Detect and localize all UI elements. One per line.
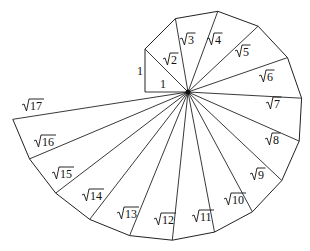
sqrt-label: 13 (117, 207, 139, 221)
sqrt-label: 9 (250, 168, 266, 182)
unit-leg (130, 236, 173, 241)
unit-leg (252, 181, 281, 212)
radicand: 5 (243, 45, 249, 59)
radicand: 8 (273, 133, 279, 147)
sqrt-label: 12 (154, 213, 176, 227)
radicand: 9 (258, 168, 264, 182)
unit-leg (90, 219, 130, 235)
unit-leg (282, 141, 299, 180)
radial-line (188, 26, 258, 92)
sqrt-label: 6 (259, 70, 275, 84)
sqrt-label: 7 (266, 97, 282, 111)
radicand: 11 (200, 210, 212, 224)
radicand: 12 (162, 213, 174, 227)
center-point (186, 90, 191, 95)
sqrt-label: 2 (163, 53, 179, 67)
radial-line (188, 92, 302, 98)
radicand: 7 (274, 97, 280, 111)
sqrt-label: 16 (34, 135, 56, 149)
unit-leg (215, 212, 253, 232)
radicand: 4 (215, 33, 221, 47)
unit-leg (288, 58, 302, 99)
leg-label: 1 (160, 77, 166, 91)
sqrt-label: 15 (52, 167, 74, 181)
radial-line (188, 11, 218, 92)
unit-leg (145, 19, 175, 49)
unit-leg (218, 11, 258, 26)
leg-label: 1 (137, 64, 143, 78)
spiral-of-theodorus: 11 234567891011121314151617 (0, 0, 310, 251)
radicand: 2 (171, 53, 177, 67)
radicand: 16 (42, 135, 54, 149)
leg-labels: 11 (137, 64, 166, 91)
radicand: 6 (267, 70, 273, 84)
sqrt-label: 11 (192, 210, 214, 224)
radial-line (130, 92, 188, 236)
radicand: 17 (30, 99, 42, 113)
radicand: 13 (125, 207, 137, 221)
radicand: 3 (188, 33, 194, 47)
radial-line (188, 92, 299, 141)
radicand: 10 (232, 193, 244, 207)
outer-edges (13, 11, 302, 240)
sqrt-label: 14 (82, 189, 104, 203)
unit-leg (13, 119, 30, 159)
sqrt-label: 3 (180, 33, 196, 47)
unit-leg (172, 232, 214, 240)
unit-leg (258, 26, 287, 57)
unit-leg (299, 98, 301, 141)
sqrt-label: 8 (265, 133, 281, 147)
unit-leg (30, 159, 56, 193)
sqrt-label: 5 (235, 45, 251, 59)
radicand: 14 (90, 189, 102, 203)
radicand: 15 (60, 167, 72, 181)
sqrt-label: 17 (22, 99, 44, 113)
hypotenuse-labels: 234567891011121314151617 (22, 33, 282, 227)
unit-leg (56, 193, 90, 219)
unit-leg (175, 11, 217, 18)
radial-line (172, 92, 188, 240)
sqrt-label: 10 (224, 193, 246, 207)
